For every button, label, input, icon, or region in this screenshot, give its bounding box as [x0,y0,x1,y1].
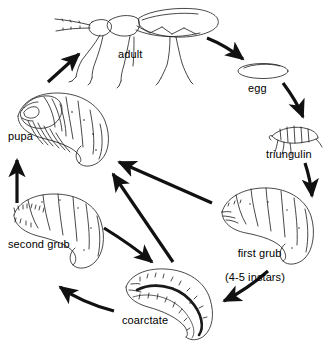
arrow-coarctate-to-pupa [113,174,173,262]
arrow-pupa-to-adult [48,54,79,82]
arrow-adult-to-egg [207,38,243,59]
stage-label-coarctate: coarctate [122,314,168,326]
stage-label-adult: adult [118,48,142,60]
life-cycle-diagram: adult egg triungulin first grub (4-5 ins… [0,0,325,341]
stage-label-first-grub: first grub (4-5 instars) [225,235,285,307]
stage-label-pupa: pupa [8,130,33,142]
stage-label-egg: egg [248,82,267,94]
coarctate-drawing [126,269,212,340]
arrow-egg-to-triungulin [283,83,303,117]
arrow-triungulin-to-first-grub [305,163,312,196]
egg-drawing [238,64,288,79]
arrow-first-grub-to-pupa [119,162,212,203]
arrow-second-grub-to-coarctate [104,228,152,262]
stage-label-first-grub-line2: (4-5 instars) [225,271,285,283]
arrow-coarctate-to-second-grub [60,287,114,311]
stage-label-triungulin: triungulin [266,148,312,160]
stage-label-second-grub: second grub [8,238,70,250]
stage-label-first-grub-line1: first grub [238,247,282,259]
second-grub-drawing [14,194,103,268]
